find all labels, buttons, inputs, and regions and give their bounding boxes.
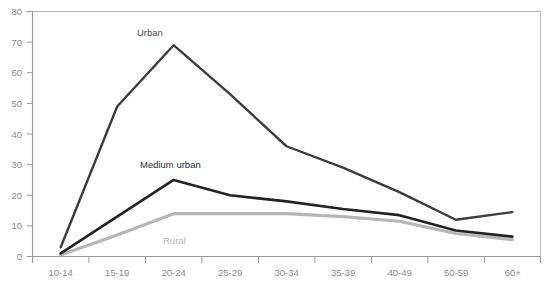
- x-tick-label: 20-24: [162, 267, 186, 278]
- x-tick-label: 35-39: [331, 267, 355, 278]
- data-series-group: [61, 45, 513, 255]
- series-line-medium-urban: [61, 180, 513, 254]
- chart-canvas: 80 70 60 50 40 30 20 10 0 10-14 15-19: [0, 0, 552, 294]
- y-tick-labels: 80 70 60 50 40 30 20 10 0: [11, 6, 22, 262]
- x-tick-marks: [33, 257, 541, 264]
- y-tick-label: 10: [11, 220, 22, 231]
- series-line-urban: [61, 45, 513, 247]
- x-tick-label: 30-34: [275, 267, 299, 278]
- x-tick-label: 40-49: [388, 267, 412, 278]
- series-label-medium-urban: Medium urban: [140, 159, 201, 170]
- x-tick-labels: 10-14 15-19 20-24 25-29 30-34 35-39 40-4…: [49, 267, 522, 278]
- y-tick-label: 60: [11, 67, 22, 78]
- x-tick-label: 15-19: [105, 267, 129, 278]
- y-tick-label: 70: [11, 37, 22, 48]
- x-tick-label: 10-14: [49, 267, 73, 278]
- y-tick-label: 0: [17, 251, 22, 262]
- y-tick-marks: [27, 12, 32, 257]
- x-tick-label: 25-29: [218, 267, 242, 278]
- y-tick-label: 80: [11, 6, 22, 17]
- series-label-urban: Urban: [137, 27, 163, 38]
- x-tick-label: 60+: [505, 267, 522, 278]
- y-tick-label: 50: [11, 98, 22, 109]
- line-chart: 80 70 60 50 40 30 20 10 0 10-14 15-19: [0, 0, 552, 294]
- y-tick-label: 20: [11, 190, 22, 201]
- y-tick-label: 40: [11, 129, 22, 140]
- series-label-rural: Rural: [163, 235, 186, 246]
- x-tick-label: 50-59: [444, 267, 468, 278]
- series-line-rural: [61, 214, 513, 255]
- y-tick-label: 30: [11, 159, 22, 170]
